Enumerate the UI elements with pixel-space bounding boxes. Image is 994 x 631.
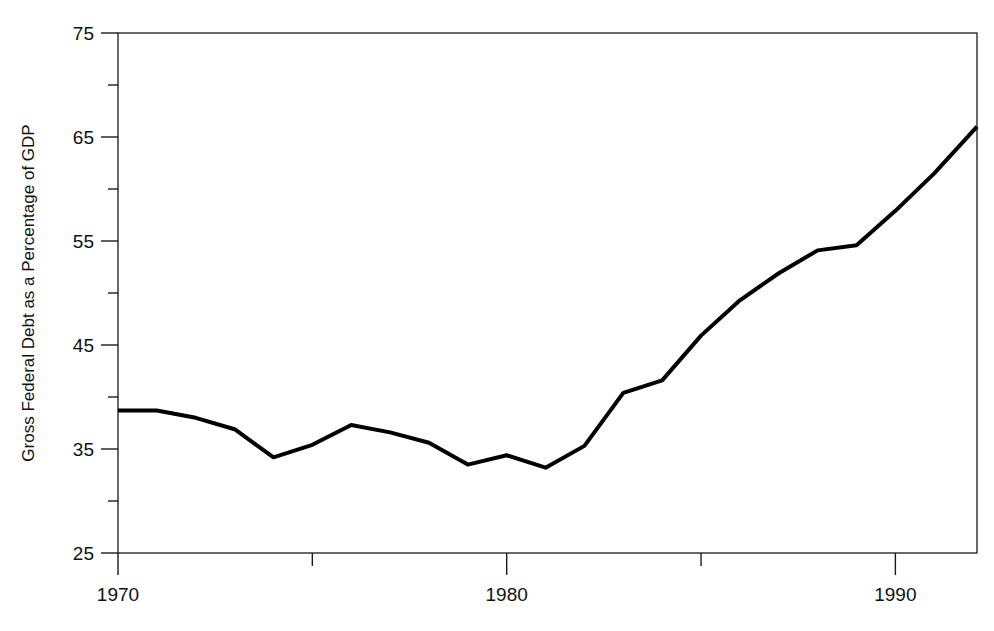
- x-axis-tick-label: 1980: [486, 584, 528, 605]
- y-axis-tick-label: 65: [73, 127, 94, 148]
- y-axis-tick-label: 25: [73, 543, 94, 564]
- plot-frame: [118, 33, 977, 553]
- chart-container: 253545556575197019801990Gross Federal De…: [0, 0, 994, 631]
- y-axis-tick-label: 45: [73, 335, 94, 356]
- x-axis-tick-label: 1970: [97, 584, 139, 605]
- y-axis-tick-label: 75: [73, 23, 94, 44]
- line-chart: 253545556575197019801990Gross Federal De…: [0, 0, 994, 631]
- y-axis-tick-label: 55: [73, 231, 94, 252]
- x-axis-tick-label: 1990: [874, 584, 916, 605]
- y-axis-title: Gross Federal Debt as a Percentage of GD…: [19, 124, 38, 461]
- y-axis-tick-label: 35: [73, 439, 94, 460]
- data-line-series: [118, 127, 977, 468]
